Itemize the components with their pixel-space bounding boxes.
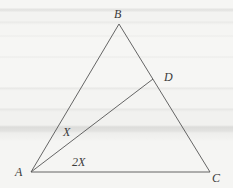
segment-bc [119, 24, 210, 172]
angle-label-dac: 2X [72, 156, 85, 168]
angle-label-bad: X [63, 126, 70, 138]
diagram-canvas: B D A C X 2X [0, 0, 233, 188]
vertex-label-b: B [114, 8, 121, 20]
vertex-label-a: A [15, 166, 22, 178]
point-label-d: D [164, 71, 173, 83]
segment-ab [31, 24, 119, 172]
vertex-label-c: C [212, 172, 220, 184]
triangle-figure [0, 0, 233, 188]
segment-ad [31, 79, 153, 172]
